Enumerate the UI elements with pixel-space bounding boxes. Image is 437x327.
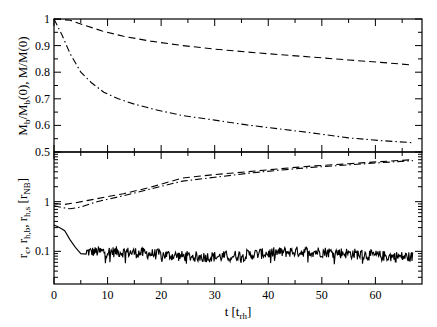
top-panel-frame (54, 19, 422, 152)
x-axis-label: t [trh] (225, 304, 252, 321)
x-tick-label: 40 (262, 288, 274, 302)
y-tick-label: 0.8 (35, 65, 50, 79)
x-tick-label: 0 (51, 288, 57, 302)
y-tick-label: 0.5 (35, 145, 50, 159)
x-tick-label: 50 (316, 288, 328, 302)
y-tick-label: 0.9 (35, 39, 50, 53)
series-dashdot (54, 161, 413, 209)
x-tick-label: 10 (102, 288, 114, 302)
data-series (54, 19, 413, 264)
y-tick-label: 1 (44, 195, 50, 209)
series-r-c (54, 225, 413, 264)
plot-frame (54, 19, 422, 284)
x-tick-label: 60 (369, 288, 381, 302)
bottom-ylabel: rc, rh,b, rh,s [rNB] (15, 178, 32, 258)
y-tick-label: 0.6 (35, 118, 50, 132)
series-dashed (54, 160, 413, 205)
series-dashdot (54, 19, 413, 143)
y-tick-label: 0.7 (35, 92, 50, 106)
y-tick-label: 1 (44, 12, 50, 26)
top-ylabel: Mb/Mb(0), M/M(0) (15, 36, 32, 135)
x-tick-label: 20 (155, 288, 167, 302)
bottom-panel-frame (54, 152, 422, 284)
chart: 01020304050600.50.60.70.80.910.11 Mb/Mb(… (0, 0, 437, 327)
y-tick-label: 0.1 (35, 244, 50, 258)
x-tick-label: 30 (209, 288, 221, 302)
